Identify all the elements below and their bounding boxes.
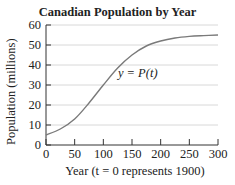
x-tick-label: 0 bbox=[43, 147, 49, 161]
x-tick-label: 50 bbox=[68, 147, 81, 161]
x-tick-label: 200 bbox=[151, 147, 170, 161]
y-tick-label: 30 bbox=[29, 78, 42, 92]
y-tick-label: 20 bbox=[29, 98, 42, 112]
plot-area: 0102030405060050100150200250300y = P(t) bbox=[0, 0, 235, 185]
x-tick-label: 250 bbox=[180, 147, 199, 161]
curve-annotation: y = P(t) bbox=[116, 66, 158, 80]
y-tick-label: 50 bbox=[29, 38, 42, 52]
x-tick-label: 300 bbox=[209, 147, 228, 161]
x-tick-label: 100 bbox=[94, 147, 113, 161]
x-tick-label: 150 bbox=[123, 147, 142, 161]
y-tick-label: 60 bbox=[29, 18, 42, 32]
y-tick-label: 10 bbox=[29, 118, 42, 132]
y-tick-label: 0 bbox=[35, 138, 41, 152]
y-tick-label: 40 bbox=[29, 58, 42, 72]
